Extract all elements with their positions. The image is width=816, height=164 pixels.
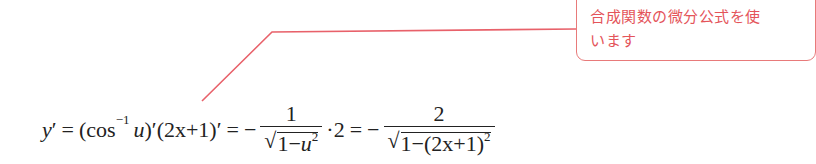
radicand-2-body: 1−(2x+1) (401, 131, 484, 156)
formula-times-two: ·2 (326, 117, 344, 143)
radicand-2: 1−(2x+1)2 (401, 132, 491, 158)
fraction-1-numerator: 1 (280, 102, 303, 126)
callout-text: 合成関数の微分公式を使 います (590, 5, 800, 53)
fraction-2-denominator: √ 1−(2x+1)2 (384, 126, 495, 158)
formula-minus-2: − (367, 117, 379, 143)
formula-minus: − (244, 117, 256, 143)
formula-equals-2: = (227, 117, 239, 143)
formula-inverse-exponent: −1 (116, 112, 130, 128)
radicand-1-var: u (301, 131, 312, 156)
derivative-formula: y′ = (cos−1 u)′(2x+1)′ = − 1 √ 1−u2 ·2 =… (42, 100, 499, 160)
formula-equals-3: = (350, 117, 362, 143)
formula-lhs: y (42, 117, 52, 143)
formula-cos-open: (cos (79, 117, 116, 143)
formula-close-prime: )′ (145, 117, 157, 143)
fraction-2-numerator: 2 (428, 102, 451, 126)
fraction-1-denominator: √ 1−u2 (260, 126, 322, 158)
sqrt-icon: √ (388, 128, 400, 154)
radicand-1: 1−u2 (277, 132, 318, 158)
fraction-2: 2 √ 1−(2x+1)2 (384, 102, 495, 158)
radicand-1-exponent: 2 (312, 129, 319, 144)
formula-inner-derivative: (2x+1)′ (157, 117, 222, 143)
formula-prime: ′ (52, 117, 57, 143)
callout-text-line1: 合成関数の微分公式を使 (590, 5, 800, 29)
formula-equals: = (62, 117, 74, 143)
radicand-2-exponent: 2 (484, 129, 491, 144)
callout-text-line2: います (590, 29, 800, 53)
radicand-1-const: 1− (277, 131, 300, 156)
fraction-1: 1 √ 1−u2 (260, 102, 322, 158)
sqrt-icon: √ (264, 128, 276, 154)
formula-u: u (134, 117, 145, 143)
